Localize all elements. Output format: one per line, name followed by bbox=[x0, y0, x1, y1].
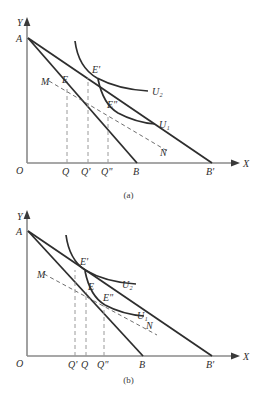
point-label-E-double-prime-b: E" bbox=[102, 292, 114, 303]
point-label-M-b: M bbox=[36, 269, 46, 280]
chart-b-canvas: Y X A O M E' E E" N U₂ U₁ Q' Q Q" B B' bbox=[0, 200, 257, 395]
indifference-curves-a bbox=[75, 41, 155, 124]
tick-label-Q-double-prime-b: Q" bbox=[97, 359, 109, 370]
indifference-curve-U2-b bbox=[66, 235, 136, 284]
tick-label-Q-double-prime-a: Q" bbox=[101, 166, 113, 177]
point-label-E-a: E bbox=[61, 74, 68, 85]
chart-b-labels: Y X A O M E' E E" N U₂ U₁ Q' Q Q" B B' bbox=[15, 211, 250, 370]
figure-caption-a: (a) bbox=[0, 190, 257, 200]
axes-a bbox=[24, 17, 240, 166]
point-label-E-double-prime-a: E" bbox=[106, 99, 118, 110]
budget-line-ABprime-b bbox=[28, 231, 212, 356]
x-axis-arrow-b bbox=[231, 353, 240, 360]
axis-label-y-b: Y bbox=[17, 211, 24, 222]
point-label-A-b: A bbox=[15, 226, 23, 237]
budget-lines-b bbox=[28, 231, 212, 356]
origin-label-O-a: O bbox=[16, 165, 23, 176]
curve-label-U2-a: U₂ bbox=[152, 86, 163, 97]
x-axis-arrow-a bbox=[231, 160, 240, 167]
chart-a-labels: Y X A O M E E' E" N U₂ U₁ Q Q' Q" B B' bbox=[15, 17, 250, 177]
figure-caption-b: (b) bbox=[0, 375, 257, 385]
axis-label-x-b: X bbox=[242, 351, 250, 362]
point-label-A-a: A bbox=[15, 33, 23, 44]
y-axis-arrow-b bbox=[24, 210, 31, 219]
tick-label-B-a: B bbox=[133, 166, 139, 177]
point-label-E-prime-b: E' bbox=[79, 256, 89, 267]
tick-label-B-prime-a: B' bbox=[206, 166, 215, 177]
axis-label-y-a: Y bbox=[17, 17, 24, 28]
point-label-M-a: M bbox=[40, 76, 50, 87]
curve-label-U1-a: U₁ bbox=[159, 119, 170, 130]
tick-label-B-prime-b: B' bbox=[206, 359, 215, 370]
budget-lines-a bbox=[28, 38, 212, 163]
curve-label-U2-b: U₂ bbox=[122, 279, 133, 290]
tick-label-Q-prime-a: Q' bbox=[81, 166, 91, 177]
origin-label-O-b: O bbox=[16, 358, 23, 369]
tick-label-Q-b: Q bbox=[81, 359, 89, 370]
compensated-line-MN-b bbox=[44, 274, 157, 335]
point-label-N-a: N bbox=[159, 147, 168, 158]
curve-label-U1-b: U₁ bbox=[137, 310, 148, 321]
y-axis-arrow-a bbox=[24, 17, 31, 26]
budget-line-AB-b bbox=[28, 231, 143, 356]
chart-a-canvas: Y X A O M E E' E" N U₂ U₁ Q Q' Q" B B' bbox=[0, 0, 257, 207]
figure-panel-b: Y X A O M E' E E" N U₂ U₁ Q' Q Q" B B' bbox=[0, 200, 257, 395]
tick-label-B-b: B bbox=[139, 359, 145, 370]
axis-label-x-a: X bbox=[242, 158, 250, 169]
indifference-curve-U2-a bbox=[75, 41, 148, 91]
point-label-E-b: E bbox=[87, 281, 94, 292]
figure-panel-a: Y X A O M E E' E" N U₂ U₁ Q Q' Q" B B' bbox=[0, 0, 257, 207]
indifference-curve-U1-b bbox=[85, 271, 144, 316]
point-label-E-prime-a: E' bbox=[91, 64, 101, 75]
tick-label-Q-prime-b: Q' bbox=[68, 359, 78, 370]
point-label-N-b: N bbox=[145, 320, 154, 331]
tick-label-Q-a: Q bbox=[62, 166, 70, 177]
indifference-curves-b bbox=[66, 235, 144, 316]
